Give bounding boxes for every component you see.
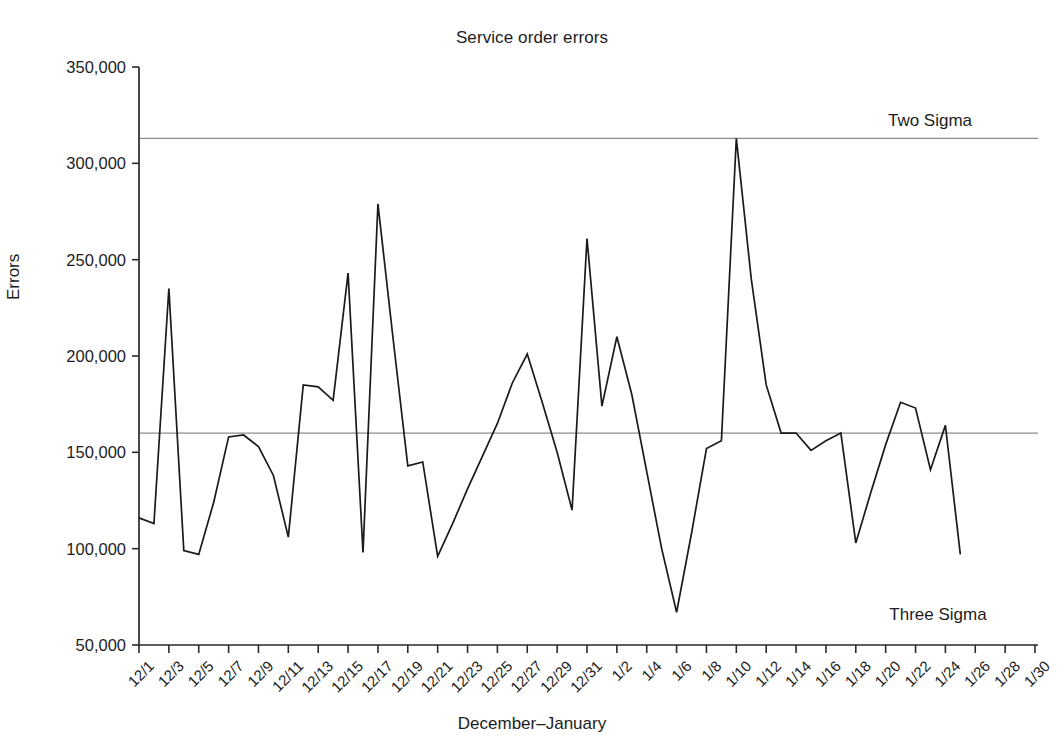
x-tick-label: 1/14	[782, 657, 815, 690]
y-tick-label: 100,000	[66, 540, 126, 558]
x-tick-label: 12/11	[269, 657, 307, 695]
x-tick-label: 12/19	[387, 657, 426, 696]
y-tick-label: 200,000	[66, 347, 126, 365]
x-tick-label: 1/6	[668, 657, 695, 684]
x-tick-label: 12/27	[507, 657, 546, 696]
y-tick-label: 350,000	[66, 58, 126, 76]
x-tick-label: 12/5	[184, 657, 217, 690]
x-tick-label: 1/26	[961, 657, 994, 690]
y-axis: 350,000300,000250,000200,000150,000100,0…	[66, 58, 139, 654]
y-tick-label: 250,000	[66, 251, 126, 269]
x-tick-label: 12/31	[567, 657, 606, 696]
x-axis: 12/112/312/512/712/912/1112/1312/1512/17…	[124, 645, 1053, 696]
x-tick-label: 1/22	[901, 657, 934, 690]
annotation-group: Two SigmaThree Sigma	[888, 111, 987, 624]
x-tick-label: 12/25	[477, 657, 516, 696]
x-tick-label: 1/4	[638, 657, 665, 684]
reference-line-group	[139, 138, 1038, 433]
three-sigma-label: Three Sigma	[889, 605, 987, 624]
data-line-errors	[139, 138, 960, 612]
x-tick-label: 1/28	[991, 657, 1024, 690]
x-tick-label: 1/10	[722, 657, 755, 690]
x-tick-label: 1/18	[841, 657, 874, 690]
x-tick-label: 12/23	[447, 657, 486, 696]
x-tick-label: 1/12	[752, 657, 785, 690]
x-tick-label: 12/21	[417, 657, 456, 696]
y-tick-label: 300,000	[66, 154, 126, 172]
y-tick-label: 50,000	[76, 636, 126, 654]
x-tick-label: 1/2	[608, 657, 635, 684]
x-tick-label: 1/30	[1020, 657, 1053, 690]
x-tick-label: 1/24	[931, 657, 964, 690]
x-tick-label: 12/15	[328, 657, 367, 696]
x-tick-label: 12/3	[154, 657, 187, 690]
x-tick-label: 1/8	[698, 657, 725, 684]
x-tick-label: 12/13	[298, 657, 337, 696]
two-sigma-label: Two Sigma	[888, 111, 973, 130]
x-tick-label: 12/1	[124, 657, 157, 690]
x-tick-label: 12/17	[357, 657, 396, 696]
x-tick-label: 1/20	[871, 657, 904, 690]
y-tick-label: 150,000	[66, 443, 126, 461]
chart-container: Service order errors Errors December–Jan…	[0, 0, 1064, 754]
x-tick-label: 12/7	[214, 657, 247, 690]
data-series-group	[139, 138, 960, 612]
x-tick-label: 1/16	[811, 657, 844, 690]
x-tick-label: 12/29	[537, 657, 576, 696]
plot-area: 350,000300,000250,000200,000150,000100,0…	[0, 0, 1064, 754]
